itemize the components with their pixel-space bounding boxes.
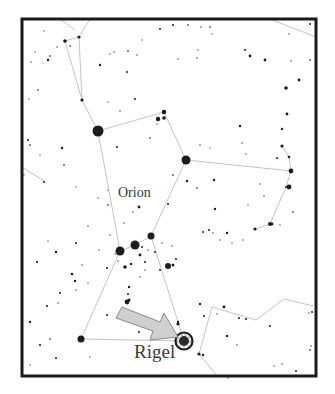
background-star xyxy=(23,174,24,175)
background-star xyxy=(156,123,158,125)
background-star xyxy=(175,258,177,260)
background-star xyxy=(161,242,163,244)
background-star xyxy=(269,325,271,327)
background-star xyxy=(81,264,83,266)
background-star xyxy=(202,354,204,356)
background-star xyxy=(209,147,210,148)
background-star xyxy=(203,315,205,317)
background-star xyxy=(249,55,252,58)
background-star xyxy=(287,185,292,190)
background-star xyxy=(107,189,108,190)
background-star xyxy=(292,211,294,213)
background-star xyxy=(231,242,233,244)
background-star xyxy=(219,239,221,241)
background-star xyxy=(223,306,226,309)
background-star xyxy=(281,363,283,365)
background-star xyxy=(97,197,99,199)
background-star xyxy=(271,223,274,226)
star-alnitak xyxy=(116,247,125,256)
background-star xyxy=(87,225,89,227)
background-star xyxy=(71,273,74,276)
background-star xyxy=(61,147,63,149)
background-star xyxy=(167,203,169,205)
background-star xyxy=(59,292,61,294)
background-star xyxy=(176,322,179,325)
background-star xyxy=(156,117,160,121)
background-star xyxy=(55,251,57,253)
background-star xyxy=(197,352,200,355)
background-star xyxy=(80,98,83,101)
background-star xyxy=(288,156,291,159)
background-star xyxy=(116,146,118,148)
background-star xyxy=(298,79,301,82)
background-star xyxy=(127,293,129,295)
background-star xyxy=(128,286,130,288)
background-star xyxy=(209,26,211,28)
star-saiph xyxy=(78,336,85,343)
background-star xyxy=(141,39,142,40)
background-star xyxy=(69,45,71,47)
background-star xyxy=(199,144,201,146)
background-star xyxy=(200,26,202,28)
background-star xyxy=(196,57,198,59)
background-star xyxy=(247,204,248,205)
background-star xyxy=(117,260,119,262)
background-star xyxy=(138,206,141,209)
background-star xyxy=(159,269,161,271)
background-star xyxy=(214,208,216,210)
background-star xyxy=(27,139,29,141)
background-star xyxy=(106,267,108,269)
background-star xyxy=(244,49,246,51)
background-star xyxy=(39,154,40,155)
background-star xyxy=(39,344,41,346)
background-star xyxy=(75,289,77,291)
background-star xyxy=(136,54,138,56)
background-star xyxy=(276,157,278,159)
background-star xyxy=(213,179,215,181)
background-star xyxy=(89,356,90,357)
background-star xyxy=(172,174,174,176)
background-star xyxy=(63,164,65,166)
background-star xyxy=(147,249,149,251)
background-star xyxy=(171,245,173,247)
background-star xyxy=(34,51,35,52)
background-star xyxy=(295,370,297,372)
background-star xyxy=(238,317,240,319)
star-bellatrix xyxy=(182,156,191,165)
background-star xyxy=(49,338,51,340)
background-star xyxy=(165,263,171,269)
background-star xyxy=(139,254,142,257)
background-star xyxy=(30,61,32,63)
background-star xyxy=(285,186,287,188)
star-mintaka xyxy=(148,233,155,240)
background-star xyxy=(208,229,210,231)
background-star xyxy=(28,98,29,99)
background-star xyxy=(138,331,140,333)
constellation-label: Orion xyxy=(118,185,151,200)
background-star xyxy=(36,261,38,263)
background-star xyxy=(98,249,99,250)
background-star xyxy=(123,222,125,224)
background-star xyxy=(29,364,30,365)
background-star xyxy=(134,98,136,100)
background-star xyxy=(29,321,31,323)
background-star xyxy=(289,169,294,174)
background-star xyxy=(144,269,146,271)
background-star xyxy=(284,86,288,90)
background-star xyxy=(43,30,44,31)
background-star xyxy=(75,242,77,244)
background-star xyxy=(311,311,313,313)
background-star xyxy=(107,204,109,206)
background-star xyxy=(202,231,204,233)
background-star xyxy=(154,251,156,253)
background-star xyxy=(74,280,76,282)
background-star xyxy=(126,71,128,73)
background-star xyxy=(253,227,256,230)
background-star xyxy=(211,33,212,34)
background-star xyxy=(127,50,129,52)
background-star xyxy=(99,64,101,66)
background-star xyxy=(162,116,166,120)
background-star xyxy=(46,305,48,307)
rigel-label: Rigel xyxy=(134,341,175,362)
background-star xyxy=(77,35,80,38)
